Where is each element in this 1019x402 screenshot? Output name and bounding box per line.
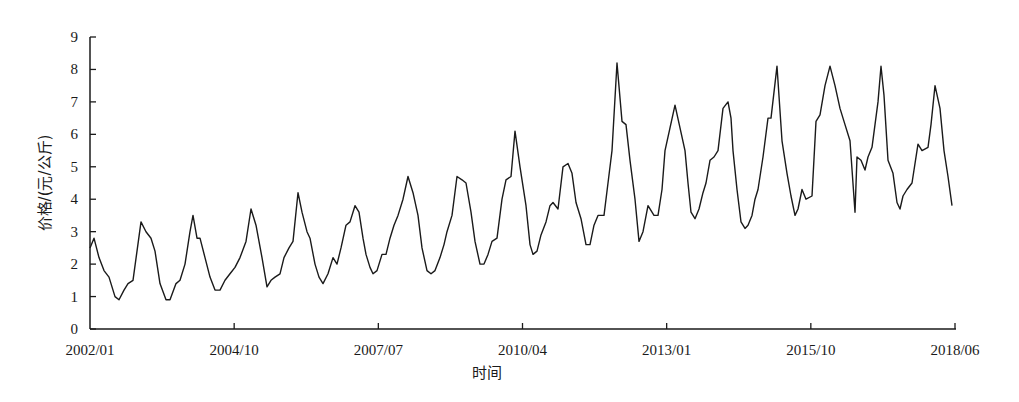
- y-axis-title: 价格/(元/公斤): [36, 135, 54, 232]
- y-ticks: 0123456789: [71, 29, 97, 337]
- x-tick-label: 2007/07: [354, 342, 404, 358]
- y-tick-label: 7: [71, 94, 79, 110]
- y-tick-label: 9: [71, 29, 79, 45]
- x-tick-label: 2010/04: [498, 342, 548, 358]
- y-tick-label: 8: [71, 61, 79, 77]
- y-tick-label: 4: [71, 191, 79, 207]
- y-tick-label: 2: [71, 256, 79, 272]
- x-tick-label: 2002/01: [65, 342, 114, 358]
- x-axis-title: 时间: [472, 364, 502, 382]
- y-tick-label: 0: [71, 321, 79, 337]
- y-tick-label: 5: [71, 159, 79, 175]
- y-tick-label: 1: [71, 289, 79, 305]
- x-tick-label: 2013/01: [642, 342, 691, 358]
- x-tick-label: 2018/06: [930, 342, 980, 358]
- line-chart: 0123456789 2002/012004/102007/072010/042…: [0, 0, 1019, 402]
- price-series-line: [90, 63, 952, 300]
- y-tick-label: 6: [71, 126, 79, 142]
- x-tick-label: 2015/10: [786, 342, 835, 358]
- x-tick-label: 2004/10: [210, 342, 259, 358]
- y-tick-label: 3: [71, 224, 79, 240]
